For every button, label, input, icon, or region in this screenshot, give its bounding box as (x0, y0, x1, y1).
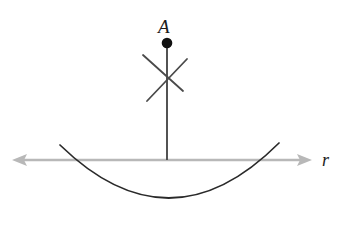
diagram-canvas: A r (0, 0, 343, 230)
point-label-a: A (158, 17, 170, 36)
cross-line-descending (143, 55, 183, 91)
cross-hatch-marks (143, 55, 187, 101)
axis-label-r: r (322, 151, 329, 169)
point-mass-dot (162, 38, 173, 49)
horizontal-axis (12, 154, 312, 166)
diagram-svg (0, 0, 343, 230)
parabola-curve (60, 143, 279, 198)
